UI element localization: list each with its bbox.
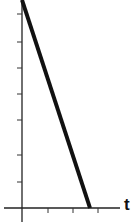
x-axis-ticks — [48, 208, 98, 213]
x-axis-label: t — [124, 196, 130, 213]
line-chart — [0, 0, 139, 224]
y-axis-ticks — [17, 14, 22, 182]
data-series-line — [22, 0, 90, 208]
y-axis — [17, 0, 22, 222]
